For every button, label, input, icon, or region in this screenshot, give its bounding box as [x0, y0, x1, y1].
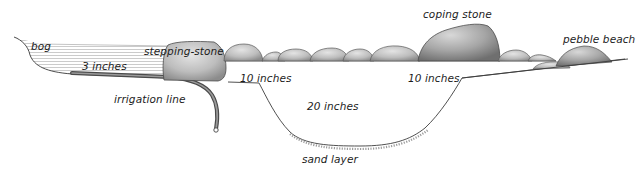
pond-cross-section-diagram: bog 3 inches stepping-stone irrigation l…	[0, 0, 636, 176]
coping-stone	[418, 24, 556, 61]
label-irrigation-line: irrigation line	[114, 94, 185, 105]
label-sand-layer: sand layer	[302, 154, 358, 165]
label-bog: bog	[31, 41, 51, 52]
label-pebble-beach: pebble beach	[563, 34, 635, 45]
label-ten-inches-right: 10 inches	[408, 73, 460, 84]
pond-drawing	[0, 0, 636, 176]
label-stepping-stone: stepping-stone	[144, 46, 224, 57]
rim-rocks	[224, 44, 420, 61]
label-coping-stone: coping stone	[423, 9, 492, 20]
label-ten-inches-left: 10 inches	[240, 73, 292, 84]
label-three-inches: 3 inches	[82, 61, 127, 72]
label-twenty-inches: 20 inches	[307, 101, 359, 112]
